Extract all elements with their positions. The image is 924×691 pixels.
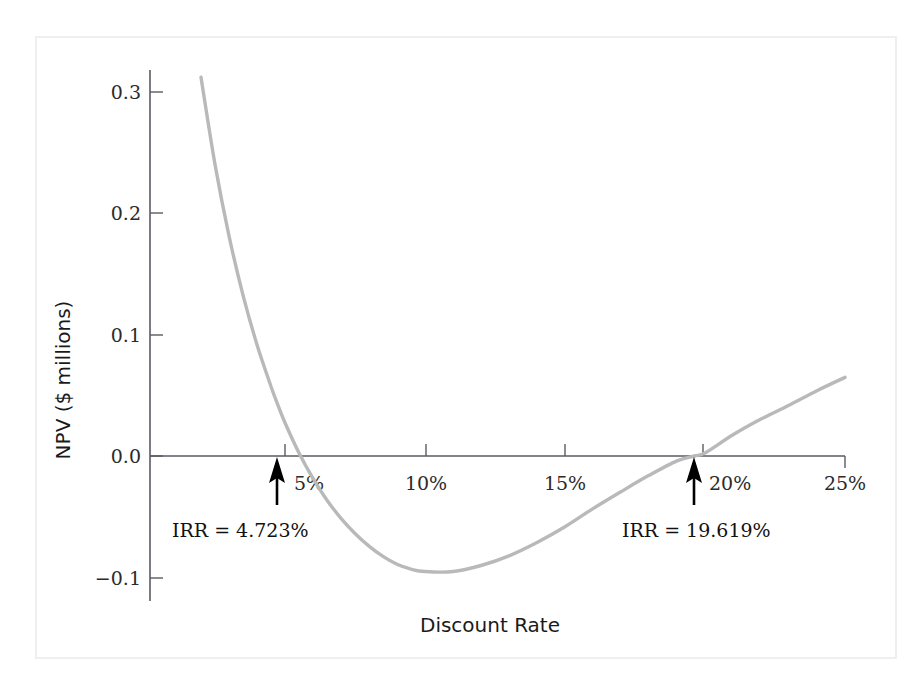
npv-chart-canvas: 0.3 0.2 0.1 0.0 −0.1 NPV ($ millions) 5%… bbox=[0, 0, 924, 691]
y-axis-title: NPV ($ millions) bbox=[51, 301, 75, 460]
y-tick-label-0: 0.3 bbox=[111, 81, 141, 103]
x-axis-title: Discount Rate bbox=[420, 613, 560, 637]
irr-low-annotation: IRR = 4.723% bbox=[172, 457, 309, 541]
y-tick-label-1: 0.2 bbox=[111, 202, 141, 224]
irr-high-annotation: IRR = 19.619% bbox=[622, 457, 771, 541]
x-tick-label-3: 20% bbox=[709, 472, 751, 494]
npv-curve-line bbox=[201, 77, 845, 572]
y-tick-label-4: −0.1 bbox=[95, 567, 141, 589]
irr-high-label: IRR = 19.619% bbox=[622, 519, 771, 541]
x-tick-label-1: 10% bbox=[405, 472, 447, 494]
x-tick-label-2: 15% bbox=[544, 472, 586, 494]
y-tick-label-3: 0.0 bbox=[111, 445, 141, 467]
x-tick-label-4: 25% bbox=[824, 472, 866, 494]
irr-low-label: IRR = 4.723% bbox=[172, 519, 309, 541]
npv-profile-figure: 0.3 0.2 0.1 0.0 −0.1 NPV ($ millions) 5%… bbox=[0, 0, 924, 691]
y-tick-label-2: 0.1 bbox=[111, 324, 141, 346]
